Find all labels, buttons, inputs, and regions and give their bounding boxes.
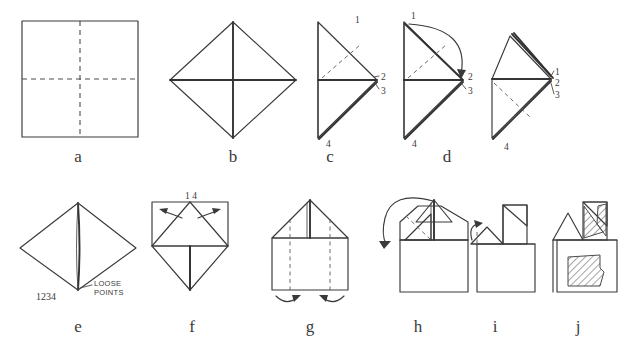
- point-label-d-4: 4: [412, 139, 417, 149]
- point-label-c-2: 2: [381, 72, 386, 82]
- step-c-figure: [318, 22, 377, 139]
- step-label-c: c: [326, 147, 334, 166]
- step-label-f: f: [189, 317, 195, 336]
- step-label-e: e: [74, 317, 82, 336]
- step-label-i: i: [493, 317, 498, 336]
- point-label-d-2: 2: [468, 72, 473, 82]
- step-j-shaded-body: [568, 255, 604, 286]
- step-h-figure: [400, 200, 468, 292]
- loose-points-label-line1: LOOSE: [94, 279, 121, 288]
- step-letter-labels: a b c d e f g h i j: [74, 147, 580, 336]
- step-g-arrows: [276, 295, 344, 302]
- point-label-f-14: 1 4: [185, 191, 197, 201]
- step-i-figure: [471, 205, 535, 292]
- point-label-c-3: 3: [381, 86, 386, 96]
- origami-steps-svg: 1 2 3 4 1 2 3 4: [0, 0, 640, 342]
- point-label-e-4: 4: [504, 142, 509, 152]
- step-f-figure: [152, 202, 228, 290]
- point-label-e-2: 2: [555, 78, 560, 88]
- point-label-e-3: 3: [555, 90, 560, 100]
- step-b-figure: [170, 22, 296, 138]
- step-j-figure: [553, 202, 617, 292]
- step-a-figure: [22, 21, 138, 137]
- point-label-c-1: 1: [355, 15, 360, 25]
- step-label-d: d: [443, 147, 452, 166]
- step-f-arrows: [159, 208, 221, 218]
- step-g-figure: [272, 200, 348, 290]
- step-label-j: j: [575, 317, 581, 336]
- step-label-h: h: [414, 317, 423, 336]
- step-d-fold-arrow: [409, 24, 466, 79]
- step-label-g: g: [306, 317, 315, 336]
- step-e-top-figure: [492, 33, 553, 139]
- point-label-d-1: 1: [411, 11, 416, 21]
- step-e-figure: [20, 203, 136, 290]
- origami-diagram-sheet: 1 2 3 4 1 2 3 4: [0, 0, 640, 342]
- loose-points-label-line2: POINTS: [94, 288, 124, 297]
- step-e-loose-points-callout: LOOSE POINTS 1234: [36, 279, 124, 302]
- point-label-d-3: 3: [468, 86, 473, 96]
- point-label-e-1: 1: [555, 67, 560, 77]
- loose-points-numbers: 1234: [36, 291, 56, 302]
- step-label-a: a: [74, 147, 82, 166]
- step-label-b: b: [229, 147, 238, 166]
